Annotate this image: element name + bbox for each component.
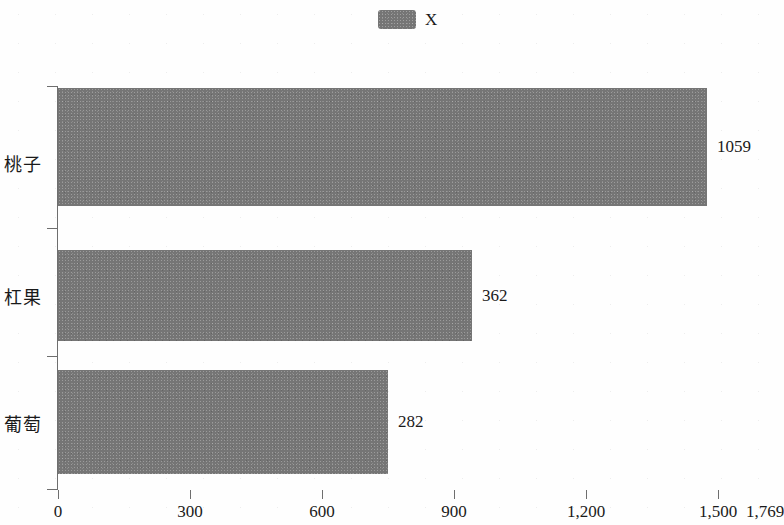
bar-2: [58, 370, 388, 474]
x-tick-label-0: 0: [54, 502, 63, 522]
x-axis-tick-1200: [586, 490, 587, 499]
plot-area: 1059 362 282 0 300 600 900 1,200 1,500 1…: [58, 86, 765, 490]
y-axis-tick-bottom: [47, 489, 58, 490]
x-tick-label-2: 600: [309, 502, 335, 522]
legend-label-x: X: [425, 11, 437, 28]
x-axis-tick-900: [454, 490, 455, 499]
bar-0: [58, 88, 707, 206]
x-axis-tick-0: [58, 490, 59, 499]
bar-1: [58, 250, 472, 341]
legend-swatch-x: [378, 10, 416, 29]
category-label-2: 葡萄: [4, 410, 56, 436]
y-axis-tick-top: [47, 86, 58, 87]
x-axis-tick-1500: [718, 490, 719, 499]
category-label-1: 杠果: [4, 283, 56, 309]
x-tick-label-3: 900: [441, 502, 467, 522]
x-axis-tick-300: [190, 490, 191, 499]
chart-legend: X: [378, 10, 437, 29]
x-tick-label-5: 1,500: [699, 502, 737, 522]
x-tick-label-4: 1,200: [567, 502, 605, 522]
bar-value-0: 1059: [717, 137, 751, 157]
y-axis-tick-2: [47, 356, 58, 357]
category-label-0: 桃子: [4, 150, 56, 176]
x-axis-tick-600: [322, 490, 323, 499]
y-axis-tick-1: [47, 228, 58, 229]
bar-value-1: 362: [482, 286, 508, 306]
x-tick-label-1: 300: [177, 502, 203, 522]
bar-value-2: 282: [398, 412, 424, 432]
x-tick-label-6: 1,769: [746, 502, 784, 522]
